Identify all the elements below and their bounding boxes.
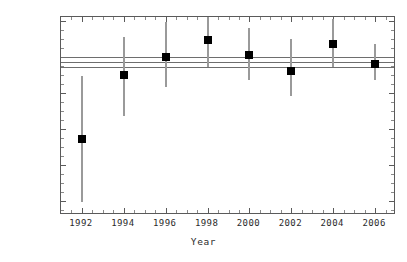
y-axis-tick	[389, 129, 394, 130]
y-axis-tick	[389, 165, 394, 166]
x-axis-minor-tick	[176, 210, 177, 213]
y-axis-tick	[389, 201, 394, 202]
x-axis-minor-tick	[103, 210, 104, 213]
y-axis-minor-tick	[61, 156, 64, 157]
x-axis-minor-tick	[312, 210, 313, 213]
x-axis-minor-tick	[197, 17, 198, 20]
x-axis-tick	[249, 208, 250, 213]
x-axis-minor-tick	[229, 210, 230, 213]
x-axis-minor-tick	[354, 210, 355, 213]
x-axis-minor-tick	[134, 210, 135, 213]
x-axis-tick	[124, 17, 125, 22]
x-axis-tick	[208, 208, 209, 213]
data-point-marker	[287, 67, 295, 75]
y-axis-tick	[61, 129, 66, 130]
average-band-line	[61, 67, 394, 68]
x-axis-tick-label: 2000	[237, 218, 260, 228]
x-axis-tick	[166, 208, 167, 213]
y-axis-minor-tick	[391, 30, 394, 31]
x-axis-title: Year	[0, 236, 407, 247]
x-axis-minor-tick	[302, 210, 303, 213]
data-point-marker	[162, 53, 170, 61]
x-axis-minor-tick	[134, 17, 135, 20]
x-axis-minor-tick	[365, 210, 366, 213]
y-axis-minor-tick	[61, 210, 64, 211]
data-point-marker	[204, 36, 212, 44]
y-axis-minor-tick	[61, 147, 64, 148]
x-axis-tick	[124, 208, 125, 213]
x-axis-minor-tick	[71, 210, 72, 213]
x-axis-minor-tick	[92, 210, 93, 213]
x-axis-minor-tick	[218, 17, 219, 20]
chart-figure: Strong coupling at Z scale Year 0.110.11…	[0, 0, 407, 262]
x-axis-tick	[375, 208, 376, 213]
x-axis-tick-label: 1992	[69, 218, 92, 228]
x-axis-tick-label: 2002	[279, 218, 302, 228]
y-axis-minor-tick	[61, 102, 64, 103]
x-axis-minor-tick	[155, 210, 156, 213]
y-axis-minor-tick	[61, 75, 64, 76]
y-axis-minor-tick	[61, 48, 64, 49]
x-axis-minor-tick	[344, 17, 345, 20]
y-axis-minor-tick	[391, 48, 394, 49]
y-axis-minor-tick	[61, 183, 64, 184]
x-axis-minor-tick	[92, 17, 93, 20]
x-axis-tick-label: 1996	[153, 218, 176, 228]
x-axis-minor-tick	[103, 17, 104, 20]
x-axis-minor-tick	[323, 210, 324, 213]
x-axis-tick-label: 1994	[111, 218, 134, 228]
y-axis-minor-tick	[391, 84, 394, 85]
x-axis-minor-tick	[281, 17, 282, 20]
x-axis-minor-tick	[176, 17, 177, 20]
x-axis-minor-tick	[145, 17, 146, 20]
y-axis-minor-tick	[391, 39, 394, 40]
y-axis-minor-tick	[61, 111, 64, 112]
x-axis-minor-tick	[71, 17, 72, 20]
x-axis-minor-tick	[365, 17, 366, 20]
data-point-marker	[329, 40, 337, 48]
x-axis-minor-tick	[323, 17, 324, 20]
y-axis-minor-tick	[391, 174, 394, 175]
x-axis-minor-tick	[344, 210, 345, 213]
data-point-marker	[120, 71, 128, 79]
x-axis-tick	[375, 17, 376, 22]
x-axis-minor-tick	[260, 210, 261, 213]
x-axis-tick	[82, 208, 83, 213]
y-axis-minor-tick	[391, 147, 394, 148]
y-axis-tick	[389, 21, 394, 22]
x-axis-minor-tick	[270, 210, 271, 213]
x-axis-minor-tick	[113, 17, 114, 20]
y-axis-tick	[61, 165, 66, 166]
x-axis-minor-tick	[218, 210, 219, 213]
x-axis-minor-tick	[239, 210, 240, 213]
y-axis-minor-tick	[391, 120, 394, 121]
y-axis-minor-tick	[61, 84, 64, 85]
x-axis-minor-tick	[113, 210, 114, 213]
y-axis-minor-tick	[391, 138, 394, 139]
y-axis-minor-tick	[391, 210, 394, 211]
y-axis-tick	[61, 21, 66, 22]
data-point-marker	[245, 51, 253, 59]
x-axis-minor-tick	[386, 17, 387, 20]
average-band-line	[61, 62, 394, 63]
x-axis-tick	[333, 208, 334, 213]
y-axis-minor-tick	[391, 75, 394, 76]
x-axis-minor-tick	[239, 17, 240, 20]
y-axis-tick	[61, 201, 66, 202]
x-axis-minor-tick	[354, 17, 355, 20]
x-axis-minor-tick	[302, 17, 303, 20]
y-axis-minor-tick	[61, 192, 64, 193]
y-axis-minor-tick	[61, 120, 64, 121]
y-axis-minor-tick	[391, 111, 394, 112]
data-point-marker	[371, 60, 379, 68]
x-axis-tick	[82, 17, 83, 22]
y-axis-minor-tick	[391, 183, 394, 184]
x-axis-minor-tick	[281, 210, 282, 213]
x-axis-minor-tick	[270, 17, 271, 20]
y-axis-minor-tick	[61, 174, 64, 175]
x-axis-tick-label: 1998	[195, 218, 218, 228]
x-axis-tick	[249, 17, 250, 22]
y-axis-minor-tick	[391, 192, 394, 193]
x-axis-minor-tick	[386, 210, 387, 213]
plot-area	[60, 16, 395, 214]
